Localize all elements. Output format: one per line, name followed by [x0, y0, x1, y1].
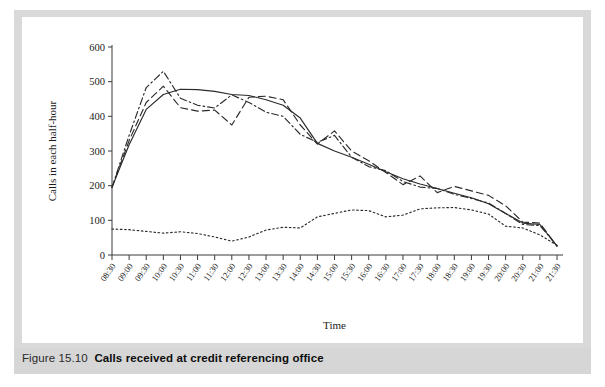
x-tick-label: 09:00	[115, 261, 134, 283]
x-tick-label: 12:00	[218, 261, 237, 283]
x-tick-label: 18:30	[441, 261, 460, 283]
y-tick-label: 500	[89, 76, 105, 87]
calls-line-chart: 010020030040050060008:3009:0009:3010:001…	[22, 17, 583, 343]
x-tick-label: 09:30	[132, 261, 151, 283]
y-tick-label: 100	[89, 215, 105, 226]
x-tick-label: 16:30	[372, 261, 391, 283]
figure-block: 010020030040050060008:3009:0009:3010:001…	[0, 0, 605, 387]
x-tick-label: 15:00	[321, 261, 340, 283]
y-tick-label: 600	[89, 42, 105, 53]
x-tick-label: 21:00	[526, 261, 545, 283]
x-tick-label: 14:30	[304, 261, 323, 283]
axes-group: 010020030040050060008:3009:0009:3010:001…	[89, 42, 563, 284]
figure-caption-number: Figure 15.10	[22, 352, 88, 364]
x-tick-label: 18:00	[423, 261, 442, 283]
series-line-moving-average	[112, 89, 557, 246]
x-tick-label: 10:00	[150, 261, 169, 283]
y-tick-label: 300	[89, 146, 105, 157]
y-axis-title: Calls in each half-hour	[46, 100, 58, 201]
x-tick-label: 17:00	[389, 261, 408, 283]
x-tick-label: 13:30	[269, 261, 288, 283]
x-tick-label: 13:00	[252, 261, 271, 283]
x-tick-label: 20:00	[492, 261, 511, 283]
x-tick-label: 15:30	[338, 261, 357, 283]
x-tick-label: 10:30	[167, 261, 186, 283]
series-group	[112, 71, 557, 246]
x-tick-label: 17:30	[406, 261, 425, 283]
figure-caption: Figure 15.10 Calls received at credit re…	[22, 352, 324, 364]
x-tick-label: 21:30	[543, 261, 562, 283]
y-tick-label: 400	[89, 111, 105, 122]
x-tick-label: 11:00	[184, 261, 203, 283]
x-tick-label: 08:30	[98, 261, 117, 283]
figure-caption-title: Calls received at credit referencing off…	[94, 352, 323, 364]
y-tick-label: 0	[100, 250, 105, 261]
series-line-13-sept	[112, 71, 557, 245]
x-tick-label: 16:00	[355, 261, 374, 283]
series-line-30-aug	[112, 86, 557, 246]
x-tick-label: 12:30	[235, 261, 254, 283]
x-tick-label: 14:00	[286, 261, 305, 283]
chart-panel: 010020030040050060008:3009:0009:3010:001…	[22, 17, 583, 343]
x-axis-title: Time	[323, 319, 346, 331]
x-tick-label: 20:30	[509, 261, 528, 283]
x-tick-label: 11:30	[201, 261, 220, 283]
series-line-6-sept	[112, 208, 557, 246]
y-tick-label: 200	[89, 180, 105, 191]
x-tick-label: 19:00	[458, 261, 477, 283]
x-tick-label: 19:30	[475, 261, 494, 283]
